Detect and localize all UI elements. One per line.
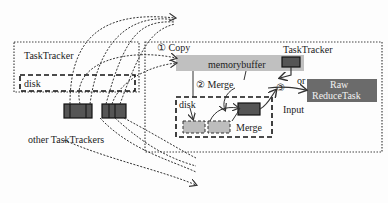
map-output-block-1 (64, 104, 92, 118)
other-tasktrackers-label: other TaskTrackers (28, 134, 104, 145)
reduce-input-buffer-block (282, 57, 300, 67)
step-1-copy-label: ① Copy (157, 42, 190, 53)
mapreduce-shuffle-diagram: TaskTracker disk other TaskTrackers ① Co… (0, 0, 388, 203)
spill-file-1 (183, 121, 205, 133)
left-disk-label: disk (24, 78, 41, 89)
step-3-label: ③ (276, 82, 285, 93)
merged-file-block (238, 103, 260, 115)
right-disk-label: disk (179, 99, 196, 110)
memory-buffer-label: memorybuffer (208, 59, 266, 70)
step-2-merge-label: ② Merge (196, 79, 233, 90)
raw-reducetask-line2: ReduceTask (312, 90, 361, 101)
merge-label: Merge (236, 122, 262, 133)
left-tasktracker-title: TaskTracker (24, 50, 73, 61)
map-output-block-2 (102, 104, 126, 118)
or-label: or (297, 75, 305, 86)
input-label: Input (283, 104, 304, 115)
right-tasktracker-title: TaskTracker (283, 44, 332, 55)
raw-reducetask-line1: Raw (330, 79, 348, 90)
spill-file-2 (208, 121, 230, 133)
